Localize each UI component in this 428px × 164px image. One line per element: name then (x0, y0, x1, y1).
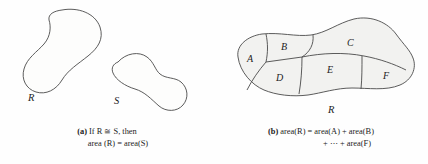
caption-a-text-1: If R ≅ S, then (89, 127, 137, 136)
panel-a-congruent-regions: R S (a) If R ≅ S, then area (R) = area(S… (0, 0, 214, 164)
caption-b-tag: (b) (268, 127, 278, 136)
region-r-outline (23, 9, 101, 93)
region-s-label: S (114, 95, 120, 106)
caption-a: (a) If R ≅ S, then area (R) = area(S) (0, 126, 214, 149)
subregion-c-label: C (347, 37, 354, 48)
region-r-label: R (27, 92, 35, 103)
caption-b-line-2: + ⋯ + area(F) (214, 138, 428, 150)
caption-b-line-1: (b) area(R) = area(A) + area(B) (214, 126, 428, 138)
panel-b-drawing: A B C D E F R (214, 0, 428, 124)
subregion-f-label: F (382, 70, 390, 81)
subregion-d-label: D (275, 72, 284, 83)
caption-b-text-1: area(R) = area(A) + area(B) (280, 127, 374, 136)
subregion-e-label: E (326, 64, 333, 75)
panel-b-partitioned-region: A B C D E F R (b) area(R) = area(A) + ar… (214, 0, 428, 164)
region-s-outline (112, 54, 187, 111)
subregion-a-label: A (246, 53, 254, 64)
caption-a-line-1: (a) If R ≅ S, then (0, 126, 214, 138)
caption-b: (b) area(R) = area(A) + area(B) + ⋯ + ar… (214, 126, 428, 149)
figure-container: R S (a) If R ≅ S, then area (R) = area(S… (0, 0, 428, 164)
region-r-outer-outline (238, 18, 415, 96)
caption-a-tag: (a) (77, 127, 87, 136)
region-r-outer-label: R (327, 104, 335, 115)
panel-a-drawing: R S (0, 0, 214, 124)
caption-a-line-2: area (R) = area(S) (0, 138, 214, 150)
subregion-b-label: B (281, 41, 287, 52)
